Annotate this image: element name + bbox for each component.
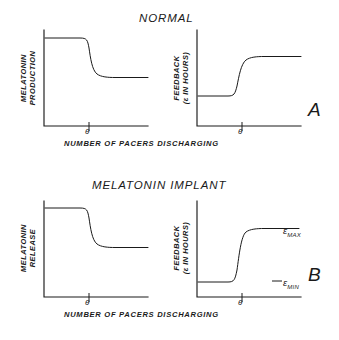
panel-b-left-theta-label: θ: [85, 298, 89, 307]
eps-min-label: εMIN: [283, 277, 299, 290]
panel-b-xlabel: NUMBER OF PACERS DISCHARGING: [64, 310, 219, 319]
melatonin-feedback-figure: NORMAL A MELATONIN PRODUCTION FEEDBACK (…: [0, 0, 339, 340]
eps-min-subscript: MIN: [287, 284, 299, 290]
panel-b-right-theta-label: θ: [238, 298, 242, 307]
eps-max-label: εMAX: [283, 225, 301, 238]
eps-max-subscript: MAX: [287, 232, 301, 238]
